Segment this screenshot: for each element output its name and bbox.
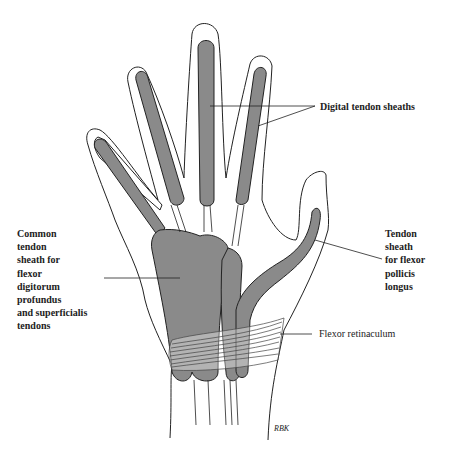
label-digital-tendon-sheaths: Digital tendon sheaths (320, 100, 415, 113)
leader-digital-2 (258, 106, 315, 126)
index-finger-sheath (236, 67, 266, 204)
label-fpl-tendon-sheath: Tendon sheath for flexor pollicis longus (385, 227, 425, 293)
hand-tendon-sheath-diagram: Digital tendon sheaths Common tendon she… (0, 0, 452, 452)
artist-signature: RBK (274, 424, 289, 433)
hand-illustration (0, 0, 452, 452)
label-common-tendon-sheath: Common tendon sheath for flexor digitoru… (17, 227, 87, 333)
label-flexor-retinaculum: Flexor retinaculum (319, 327, 395, 340)
middle-finger-sheath (198, 41, 214, 207)
ring-finger-sheath (136, 71, 184, 205)
leader-fpl (315, 240, 382, 259)
